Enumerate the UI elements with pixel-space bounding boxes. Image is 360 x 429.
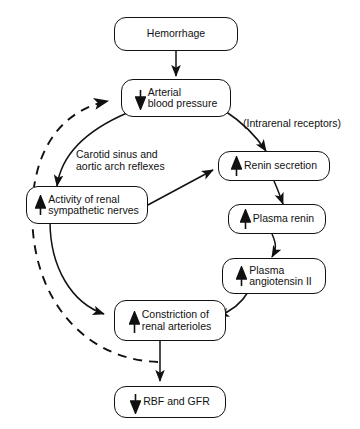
node-plasma-angiotensin[interactable]: Plasma angiotensin II: [222, 258, 326, 294]
up-arrow-icon: [231, 156, 242, 176]
up-arrow-icon: [129, 311, 140, 331]
node-renin-secretion-label: Renin secretion: [244, 160, 317, 172]
edge-renin-secretion-to-plasma-renin: [274, 181, 283, 204]
edge-sympathetic-nerves-to-renin-secretion: [146, 170, 213, 206]
annotation-intrarenal-receptors: (Intrarenal receptors): [243, 105, 341, 129]
edge-sympathetic-nerves-to-constriction: [50, 221, 104, 314]
node-plasma-renin-label: Plasma renin: [253, 213, 314, 225]
down-arrow-icon: [130, 392, 141, 412]
annotation-carotid-reflexes: Carotid sinus and aortic arch reflexes: [76, 136, 165, 172]
node-sympathetic-nerves[interactable]: Activity of renal sympathetic nerves: [26, 186, 148, 224]
up-arrow-icon: [236, 266, 247, 286]
node-constriction-label: Constriction of renal arterioles: [142, 309, 211, 332]
node-plasma-angiotensin-label: Plasma angiotensin II: [249, 265, 311, 288]
edge-plasma-renin-to-plasma-angiotensin: [272, 234, 275, 257]
node-rbf-gfr[interactable]: RBF and GFR: [114, 386, 226, 418]
flowchart-diagram: Hemorrhage Arterial blood pressure Renin…: [0, 0, 360, 429]
node-renin-secretion[interactable]: Renin secretion: [218, 151, 330, 181]
annotation-intrarenal-receptors-text: (Intrarenal receptors): [243, 117, 341, 129]
node-rbf-gfr-label: RBF and GFR: [143, 396, 210, 408]
down-arrow-icon: [135, 88, 146, 108]
node-plasma-renin[interactable]: Plasma renin: [228, 204, 326, 234]
node-hemorrhage[interactable]: Hemorrhage: [114, 17, 238, 51]
node-arterial-blood-pressure-label: Arterial blood pressure: [148, 87, 217, 110]
node-sympathetic-nerves-label: Activity of renal sympathetic nerves: [48, 194, 138, 217]
up-arrow-icon: [35, 195, 46, 215]
up-arrow-icon: [240, 209, 251, 229]
node-constriction[interactable]: Constriction of renal arterioles: [114, 300, 226, 341]
node-hemorrhage-label: Hemorrhage: [147, 28, 205, 40]
node-arterial-blood-pressure[interactable]: Arterial blood pressure: [121, 79, 231, 117]
annotation-carotid-reflexes-text: Carotid sinus and aortic arch reflexes: [76, 148, 165, 172]
